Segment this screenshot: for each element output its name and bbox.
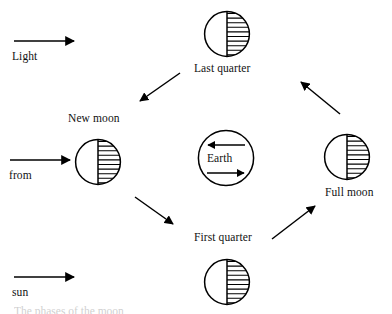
moon-full-moon-graphic [325, 135, 370, 180]
orbit-arrow-lower-right [272, 206, 315, 239]
moon-label-new-moon: New moon [68, 112, 120, 125]
diagram-vector-layer [0, 0, 392, 314]
orbit-arrow-group [135, 73, 340, 239]
light-arrow-label-from: from [9, 169, 32, 182]
orbit-arrow-upper-right [301, 82, 340, 114]
moon-label-full-moon: Full moon [325, 186, 374, 199]
orbit-arrow-lower-left [135, 197, 173, 224]
moon-label-first-quarter: First quarter [194, 231, 252, 244]
moon-new-moon-graphic [76, 140, 121, 185]
orbit-arrow-upper-left [140, 73, 180, 101]
earth-label: Earth [207, 152, 232, 165]
moon-hatch-first-quarter [227, 262, 250, 303]
light-arrow-label-sun: sun [12, 286, 28, 299]
lunar-phase-diagram: Light from sun Last quarter New moon Ful… [0, 0, 392, 314]
light-arrow-label-light: Light [12, 50, 37, 63]
moon-label-last-quarter: Last quarter [194, 62, 250, 75]
light-arrow-group [10, 41, 74, 277]
moon-last-quarter-graphic [205, 12, 250, 57]
moon-hatch-new-moon [98, 142, 121, 183]
moon-hatch-last-quarter [227, 14, 250, 55]
caption-fragment: The phases of the moon [14, 305, 124, 314]
moon-first-quarter-graphic [205, 260, 250, 305]
moon-hatch-full-moon [347, 137, 370, 178]
